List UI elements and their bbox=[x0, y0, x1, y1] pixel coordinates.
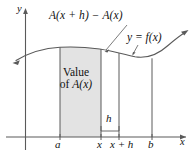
x-axis-label: x bbox=[180, 136, 185, 147]
h-width-label: h bbox=[106, 113, 112, 125]
area-function-diagram: A(x + h) − A(x) y = f(x) y x a x x + h b… bbox=[0, 0, 195, 162]
curve-label-leader-arrowhead bbox=[132, 52, 135, 56]
delta-area-label: A(x + h) − A(x) bbox=[49, 9, 123, 21]
region-value-label: Value of A(x) bbox=[48, 66, 104, 90]
tick-label-b: b bbox=[148, 139, 154, 151]
delta-label-leader-line bbox=[106, 25, 127, 50]
tick-label-a: a bbox=[55, 139, 61, 151]
region-value-function: A(x) bbox=[72, 78, 92, 90]
shaded-area-region bbox=[60, 47, 101, 137]
curve-equation-label: y = f(x) bbox=[127, 31, 162, 43]
region-value-line1: Value bbox=[48, 66, 104, 78]
y-axis-arrowhead bbox=[23, 8, 28, 14]
y-axis-label: y bbox=[17, 3, 22, 14]
tick-label-x: x bbox=[97, 139, 102, 151]
region-value-of-word: of bbox=[60, 78, 72, 90]
tick-label-x-plus-h: x + h bbox=[110, 139, 133, 151]
region-value-line2: of A(x) bbox=[48, 78, 104, 90]
